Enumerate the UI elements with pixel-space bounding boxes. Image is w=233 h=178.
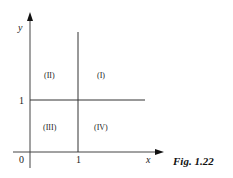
quadrant-diagram: y x 0 1 1 (II) (I) (III) (IV) Fig. 1.22 [0,0,233,178]
region-label-IV: (IV) [94,123,108,132]
figure-caption: Fig. 1.22 [172,155,214,167]
region-label-III: (III) [43,123,57,132]
x-tick-label: 1 [76,154,81,165]
region-label-I: (I) [97,71,105,80]
x-axis-label: x [145,154,151,165]
origin-label: 0 [19,154,24,165]
y-axis-label: y [17,22,23,33]
y-axis-arrow-icon [27,12,33,21]
x-axis-arrow-icon [155,149,164,155]
y-tick-label: 1 [19,95,24,106]
region-label-II: (II) [44,71,55,80]
